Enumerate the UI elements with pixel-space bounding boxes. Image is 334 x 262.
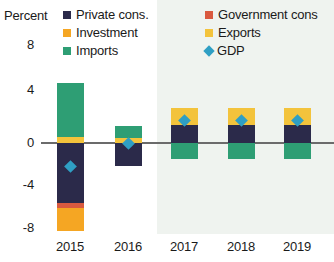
- bar-segment-imports-2019: [284, 143, 311, 159]
- x-tick-label: 2016: [103, 239, 153, 254]
- legend-label-investment: Investment: [76, 26, 138, 39]
- legend-label-private_cons: Private cons.: [76, 8, 149, 21]
- bar-segment-imports-2015: [57, 83, 84, 136]
- legend-item-imports[interactable]: Imports: [63, 44, 118, 57]
- legend-label-gdp: GDP: [217, 44, 245, 57]
- legend-item-investment[interactable]: Investment: [63, 26, 138, 39]
- x-tick-label: 2015: [45, 239, 95, 254]
- legend-item-exports[interactable]: Exports: [205, 26, 261, 39]
- legend-label-exports: Exports: [218, 26, 261, 39]
- y-tick-label: 4: [8, 82, 34, 97]
- legend-swatch-government_cons-icon: [205, 11, 213, 19]
- bar-segment-private_cons-2018: [228, 125, 255, 143]
- bar-segment-investment-2015: [57, 208, 84, 231]
- legend-item-government_cons[interactable]: Government cons: [205, 8, 318, 21]
- x-tick-label: 2019: [272, 239, 322, 254]
- legend-swatch-exports-icon: [205, 29, 213, 37]
- legend-label-government_cons: Government cons: [218, 8, 318, 21]
- x-tick-label: 2017: [159, 239, 209, 254]
- bar-segment-imports-2017: [171, 143, 198, 159]
- y-tick-label: -4: [8, 177, 34, 192]
- y-tick-label: 0: [8, 135, 34, 150]
- bar-segment-private_cons-2017: [171, 125, 198, 143]
- legend-item-private_cons[interactable]: Private cons.: [63, 8, 149, 21]
- chart-root: Percent Private cons.InvestmentImportsGo…: [0, 0, 334, 262]
- legend-swatch-private_cons-icon: [63, 11, 71, 19]
- legend-item-gdp[interactable]: GDP: [205, 44, 245, 57]
- y-axis-title: Percent: [4, 8, 47, 23]
- y-tick-label: 8: [8, 37, 34, 52]
- bar-segment-private_cons-2019: [284, 125, 311, 143]
- legend-swatch-imports-icon: [63, 47, 71, 55]
- y-tick-label: -8: [8, 220, 34, 235]
- bar-segment-imports-2016: [115, 126, 142, 138]
- bar-segment-imports-2018: [228, 143, 255, 159]
- x-tick-label: 2018: [216, 239, 266, 254]
- legend-swatch-gdp-icon: [204, 46, 214, 56]
- legend-label-imports: Imports: [76, 44, 118, 57]
- legend-swatch-investment-icon: [63, 29, 71, 37]
